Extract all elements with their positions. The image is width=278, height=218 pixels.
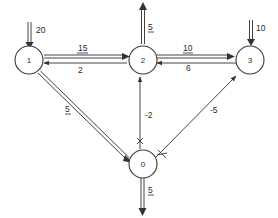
edge-2-to-3: 10: [156, 43, 235, 60]
edge-1-to-2: 15: [44, 43, 130, 60]
edge-0-3-label: -5: [210, 105, 218, 115]
edge-1-0-label: 5: [65, 104, 70, 114]
outflow-node-2: 5: [139, 2, 154, 44]
node-0: 0: [129, 150, 157, 178]
edge-2-1-label: 2: [78, 65, 83, 75]
edge-2-to-1: 2: [44, 63, 127, 75]
edge-3-to-2: 6: [157, 63, 236, 73]
node-2: 2: [129, 46, 157, 74]
inflow-node-1: 20: [26, 22, 46, 49]
edge-1-2-label: 15: [78, 43, 88, 53]
edge-3-2-label: 6: [186, 63, 191, 73]
outflow-2-label: 5: [148, 22, 153, 32]
network-flow-diagram: 20 5 10 15 2 10 6: [0, 0, 278, 218]
edge-0-to-3: -5: [156, 76, 236, 158]
outflow-node-0: 5: [139, 178, 155, 216]
edge-1-to-0: 5: [38, 71, 133, 163]
node-1: 1: [15, 46, 43, 74]
node-2-label: 2: [141, 56, 146, 65]
node-0-label: 0: [141, 160, 146, 169]
node-3-label: 3: [248, 56, 253, 65]
inflow-1-label: 20: [36, 25, 46, 35]
inflow-node-3: 10: [247, 20, 266, 46]
outflow-0-label: 5: [148, 185, 153, 195]
node-3: 3: [236, 46, 264, 74]
node-1-label: 1: [27, 56, 32, 65]
edge-0-to-2: -2: [137, 77, 153, 149]
edge-0-2-label: -2: [145, 110, 153, 120]
inflow-3-label: 10: [256, 23, 266, 33]
edge-2-3-label: 10: [183, 43, 193, 53]
